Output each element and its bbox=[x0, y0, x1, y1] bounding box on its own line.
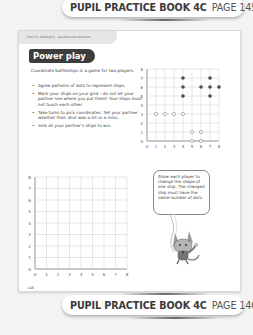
y-axis-tick: 8 bbox=[28, 175, 31, 180]
x-axis-tick: 3 bbox=[173, 144, 176, 149]
y-axis-tick: 6 bbox=[28, 198, 31, 203]
unit-header: Unit 14: Geometry – position and directi… bbox=[27, 35, 91, 39]
open-dot bbox=[154, 112, 157, 115]
y-axis-tick: 0 bbox=[140, 139, 143, 144]
x-axis-tick: 2 bbox=[57, 272, 60, 277]
page-label: PAGE 145 bbox=[212, 2, 253, 13]
open-dot bbox=[199, 139, 202, 142]
top-page-banner: PUPIL PRACTICE BOOK 4C PAGE 145 bbox=[62, 0, 244, 17]
filled-dot bbox=[181, 85, 185, 89]
book-title: PUPIL PRACTICE BOOK 4C bbox=[70, 2, 207, 13]
instruction-item: Mark your ships on your grid – do not le… bbox=[31, 91, 143, 107]
intro-text: Coordinate battleships is a game for two… bbox=[31, 68, 141, 73]
instruction-item: Take turns to pick coordinates. Tell you… bbox=[31, 110, 143, 121]
worksheet-page: Unit 14: Geometry – position and directi… bbox=[18, 30, 241, 292]
page-spread: PUPIL PRACTICE BOOK 4C PAGE 145 Unit 14:… bbox=[0, 0, 253, 335]
x-axis-tick: 1 bbox=[155, 144, 158, 149]
x-axis-tick: 5 bbox=[91, 272, 94, 277]
cat-mascot-icon bbox=[167, 229, 207, 265]
x-axis-tick: 1 bbox=[45, 272, 48, 277]
x-axis-tick: 8 bbox=[218, 144, 221, 149]
page-number: 146 bbox=[27, 286, 34, 290]
x-axis-tick: 5 bbox=[191, 144, 194, 149]
x-axis-tick: 2 bbox=[164, 144, 167, 149]
speech-bubble: Allow each player to change the shape of… bbox=[153, 170, 210, 215]
y-axis-tick: 2 bbox=[28, 244, 31, 249]
instruction-item: Agree patterns of dots to represent ship… bbox=[31, 83, 143, 88]
bottom-page-banner: PUPIL PRACTICE BOOK 4C PAGE 146 bbox=[62, 295, 244, 315]
open-dot bbox=[190, 139, 193, 142]
book-title: PUPIL PRACTICE BOOK 4C bbox=[70, 300, 207, 311]
filled-dot bbox=[208, 85, 212, 89]
x-axis-tick: 7 bbox=[209, 144, 212, 149]
instruction-item: Sink all your partner's ships to win. bbox=[31, 123, 143, 128]
y-axis-tick: 4 bbox=[28, 221, 31, 226]
y-axis-tick: 6 bbox=[140, 85, 143, 90]
filled-dot bbox=[181, 94, 185, 98]
y-axis-tick: 7 bbox=[28, 186, 31, 191]
instruction-list: Agree patterns of dots to represent ship… bbox=[31, 83, 143, 131]
x-axis-tick: 8 bbox=[126, 272, 129, 277]
y-axis-tick: 7 bbox=[140, 76, 143, 81]
y-axis-tick: 0 bbox=[28, 267, 31, 272]
y-axis-tick: 2 bbox=[140, 121, 143, 126]
speech-bubble-text: Allow each player to change the shape of… bbox=[158, 174, 205, 200]
open-dot bbox=[163, 112, 166, 115]
filled-dot bbox=[181, 76, 185, 80]
filled-dot bbox=[208, 94, 212, 98]
example-battleship-grid: 001122334455667788 bbox=[139, 66, 223, 149]
y-axis-tick: 3 bbox=[140, 112, 143, 117]
x-axis-tick: 0 bbox=[34, 272, 37, 277]
filled-dot bbox=[199, 85, 203, 89]
banner-divider bbox=[130, 317, 220, 319]
open-dot bbox=[190, 130, 193, 133]
x-axis-tick: 6 bbox=[103, 272, 106, 277]
page-title: Power play bbox=[29, 49, 95, 63]
x-axis-tick: 4 bbox=[80, 272, 83, 277]
y-axis-tick: 4 bbox=[140, 103, 143, 108]
x-axis-tick: 6 bbox=[200, 144, 203, 149]
y-axis-tick: 8 bbox=[140, 67, 143, 72]
x-axis-tick: 7 bbox=[114, 272, 117, 277]
y-axis-tick: 5 bbox=[28, 209, 31, 214]
x-axis-tick: 0 bbox=[146, 144, 149, 149]
y-axis-tick: 1 bbox=[140, 130, 143, 135]
y-axis-tick: 5 bbox=[140, 94, 143, 99]
x-axis-tick: 3 bbox=[68, 272, 71, 277]
filled-dot bbox=[217, 85, 221, 89]
open-dot bbox=[181, 112, 184, 115]
y-axis-tick: 1 bbox=[28, 255, 31, 260]
banner-divider bbox=[120, 19, 210, 21]
page-label: PAGE 146 bbox=[212, 300, 253, 311]
filled-dot bbox=[208, 76, 212, 80]
y-axis-tick: 3 bbox=[28, 232, 31, 237]
open-dot bbox=[199, 130, 202, 133]
x-axis-tick: 4 bbox=[182, 144, 185, 149]
unit-header-strip: Unit 14: Geometry – position and directi… bbox=[19, 31, 117, 44]
blank-battleship-grid[interactable]: 001122334455667788 bbox=[27, 174, 131, 277]
open-dot bbox=[172, 112, 175, 115]
